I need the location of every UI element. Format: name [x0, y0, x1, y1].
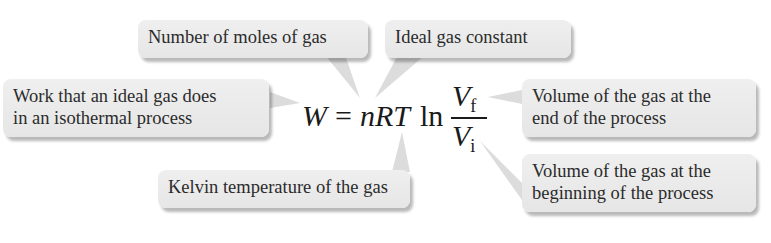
callout-moles: Number of moles of gas	[138, 20, 368, 58]
callout-gas-constant: Ideal gas constant	[385, 20, 571, 58]
callout-moles-text: Number of moles of gas	[148, 27, 327, 47]
callout-vi-line2: beginning of the process	[532, 182, 746, 204]
callout-work-line1: Work that an ideal gas does	[13, 85, 259, 107]
callout-vi: Volume of the gas at the beginning of th…	[522, 154, 756, 212]
equation-equals: =	[335, 99, 352, 133]
callout-work-line2: in an isothermal process	[13, 107, 259, 129]
callout-kelvin-text: Kelvin temperature of the gas	[168, 177, 388, 197]
pointer-moles	[325, 55, 360, 98]
callout-vf: Volume of the gas at the end of the proc…	[522, 79, 756, 137]
callout-work: Work that an ideal gas does in an isothe…	[3, 79, 269, 137]
pointer-vi	[480, 141, 522, 200]
pointer-work	[270, 92, 300, 108]
equation-denominator: Vi	[452, 119, 475, 153]
equation-work: W	[302, 99, 327, 133]
callout-kelvin: Kelvin temperature of the gas	[158, 170, 410, 208]
equation-numerator: Vf	[452, 79, 476, 113]
callout-gas-constant-text: Ideal gas constant	[395, 27, 528, 47]
equation-nRT: nRT	[360, 99, 410, 133]
pointer-kelvin	[392, 132, 410, 172]
callout-vf-line1: Volume of the gas at the	[532, 85, 746, 107]
equation-ln: ln	[420, 99, 443, 133]
pointer-vf	[488, 90, 522, 104]
callout-vf-line2: end of the process	[532, 107, 746, 129]
callout-vi-line1: Volume of the gas at the	[532, 160, 746, 182]
pointer-gas-constant	[375, 55, 425, 98]
